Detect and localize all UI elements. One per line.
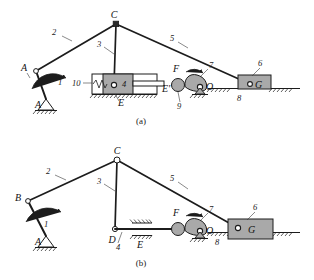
label-link-8-a: 8: [237, 93, 242, 103]
label-C-a: C: [111, 9, 118, 20]
joint-C-a: [113, 21, 118, 26]
cam-7-a: [185, 75, 207, 92]
label-E-b: E: [136, 239, 143, 250]
label-link-10-a: 10: [72, 78, 81, 88]
label-O-b: O: [206, 225, 213, 236]
label-B-b: B: [15, 192, 21, 203]
caption-b: (b): [136, 258, 147, 268]
label-link-4-b: 4: [116, 242, 121, 252]
label-O-a: O: [206, 81, 213, 92]
cam-7-b: [185, 219, 207, 236]
label-E-a: E: [117, 97, 124, 108]
label-C-b: C: [114, 145, 121, 156]
leader-2-b: [55, 175, 66, 180]
label-link-7-b: 7: [209, 204, 214, 214]
cam-rotation-arrow-b: [186, 213, 203, 217]
label-link-9-a: 9: [177, 101, 182, 111]
leader-2-a: [62, 36, 72, 41]
label-A-a: A: [20, 62, 28, 73]
leader-5-a: [178, 42, 188, 48]
roller-F-b: [172, 223, 185, 236]
label-A-b: A: [34, 236, 42, 247]
label-link-6-a: 6: [258, 58, 263, 68]
label-link-8-b: 8: [215, 237, 220, 247]
label-F-b: F: [172, 207, 180, 218]
link-2-coupler-a: [36, 24, 116, 71]
slider-block-4-a: 4: [92, 74, 164, 94]
label-G-b: G: [248, 224, 255, 235]
cam-rotation-arrow-a: [186, 69, 203, 73]
label-link-6-b: 6: [253, 202, 258, 212]
label-link-3-b: 3: [96, 176, 101, 186]
label-link-1-b: 1: [44, 219, 48, 229]
leader-B-a: [27, 73, 30, 78]
label-link-2-a: 2: [52, 27, 57, 37]
label-A-pivot-a: A: [34, 99, 42, 110]
joint-C-b: [114, 157, 120, 163]
label-link-5-b: 5: [170, 173, 174, 183]
label-E-prime-a: E': [161, 83, 171, 94]
joint-G-a: [248, 82, 253, 87]
label-link-3-a: 3: [96, 39, 101, 49]
leader-5-b: [178, 182, 188, 189]
label-link-5-a: 5: [170, 33, 174, 43]
label-F-a: F: [172, 63, 180, 74]
joint-G-b: [235, 225, 240, 230]
caption-a: (a): [136, 116, 146, 126]
label-link-7-a: 7: [209, 60, 214, 70]
diagram-b: B A C D E F O G 1 2 3 4 5 6 7 8 (b): [15, 145, 300, 268]
joint-B-b: [26, 199, 31, 204]
leader-3-a: [104, 47, 114, 54]
label-link-1-a: 1: [58, 77, 62, 87]
diagram-a: 4: [20, 9, 300, 126]
link-3-vertical-b: [115, 160, 117, 229]
joint-B-a: [34, 69, 39, 74]
figure-svg: 4: [0, 0, 314, 280]
label-G-a: G: [255, 79, 262, 90]
roller-9-a: [172, 79, 185, 92]
leader-3-b: [104, 184, 115, 191]
link-2-coupler-b: [28, 160, 117, 201]
mechanism-figure: 4: [0, 0, 314, 280]
label-link-2-b: 2: [46, 166, 51, 176]
